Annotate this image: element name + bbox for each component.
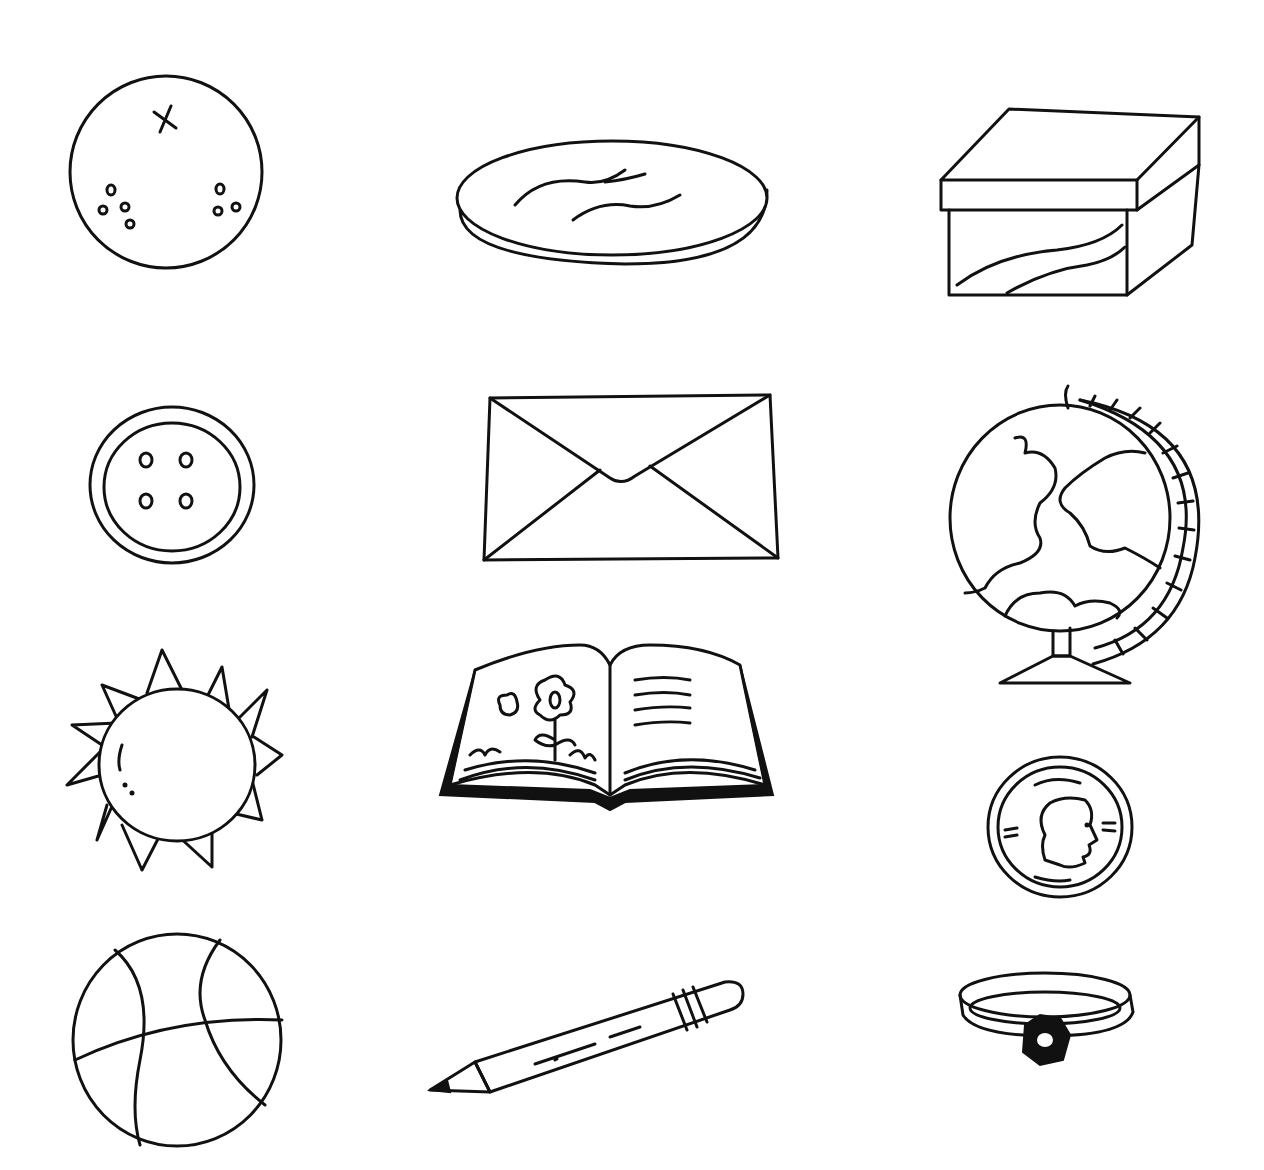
sun-icon xyxy=(62,645,287,875)
cookie-icon xyxy=(455,140,775,270)
basketball-drawing: Basketball xyxy=(70,930,285,1150)
ring-icon xyxy=(955,970,1140,1085)
cookie-drawing: Cookie xyxy=(455,140,775,270)
coin-icon xyxy=(985,755,1135,900)
globe-icon xyxy=(945,378,1195,690)
pencil-drawing: Pencil xyxy=(425,972,747,1097)
book-icon xyxy=(435,640,775,810)
orange-drawing: Orange xyxy=(66,72,266,272)
box-drawing: Box xyxy=(937,105,1207,305)
button-drawing: Button xyxy=(88,405,256,565)
orange-icon xyxy=(66,72,266,272)
box-icon xyxy=(937,105,1207,305)
globe-drawing: Globe xyxy=(945,378,1195,690)
book-drawing: Book xyxy=(435,640,775,810)
basketball-icon xyxy=(70,930,285,1150)
button-icon xyxy=(88,405,256,565)
coin-drawing: Coin xyxy=(985,755,1135,900)
envelope-icon xyxy=(480,390,780,565)
envelope-drawing: Envelope xyxy=(480,390,780,565)
pencil-icon xyxy=(425,972,747,1097)
ring-drawing: Ring xyxy=(955,970,1140,1085)
sun-drawing: Sun xyxy=(62,645,287,875)
